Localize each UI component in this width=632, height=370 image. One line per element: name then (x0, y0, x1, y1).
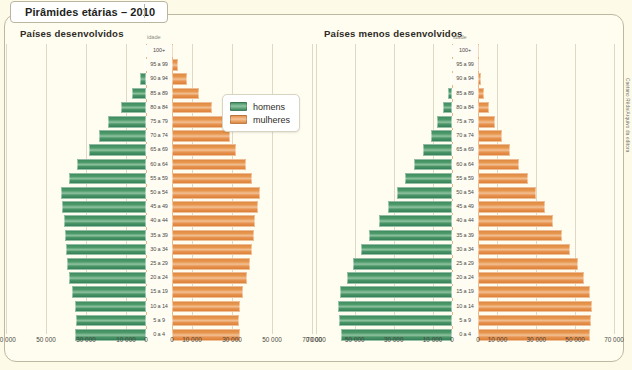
age-group-label: 90 a 94 (452, 73, 478, 85)
age-group-label: 50 a 54 (146, 187, 172, 199)
bar-homens (443, 102, 452, 114)
bar-mulheres (478, 159, 519, 171)
age-group-label: 95 a 99 (146, 59, 172, 71)
age-group-label: 75 a 79 (146, 116, 172, 128)
chart-panel-developed: Países desenvolvidos idade 100+95 a 9990… (6, 26, 312, 358)
legend-developed: homens mulheres (222, 94, 300, 132)
bar-homens (414, 159, 452, 171)
x-tick-label: 0 (144, 336, 148, 343)
pyramid-row: 5 a 9 (316, 314, 614, 328)
bar-homens (132, 88, 146, 100)
pyramid-row: 60 a 64 (316, 158, 614, 172)
x-tick-label: 70 000 (604, 336, 624, 343)
bar-homens (66, 244, 146, 256)
age-group-label: 30 a 34 (146, 244, 172, 256)
bar-mulheres (172, 201, 258, 213)
bar-homens (353, 258, 452, 270)
pyramid-row: 95 a 99 (6, 58, 312, 72)
bar-homens (75, 301, 146, 313)
bar-mulheres (478, 45, 480, 57)
bar-homens (61, 187, 146, 199)
pyramid-row: 85 a 89 (316, 87, 614, 101)
bar-mulheres (172, 159, 246, 171)
pyramid-row: 90 a 94 (316, 72, 614, 86)
age-group-label: 45 a 49 (452, 201, 478, 213)
bar-homens (379, 215, 452, 227)
bar-homens (62, 201, 146, 213)
x-tick-label: 10 000 (116, 336, 136, 343)
bar-mulheres (478, 73, 481, 85)
age-group-label: 5 a 9 (452, 315, 478, 327)
x-tick-label: 50 000 (262, 336, 282, 343)
pyramid-row: 20 a 24 (6, 271, 312, 285)
bar-mulheres (172, 187, 260, 199)
bar-mulheres (478, 272, 584, 284)
bar-homens (89, 144, 146, 156)
age-group-label: 35 a 39 (146, 230, 172, 242)
pyramid-row: 45 a 49 (6, 200, 312, 214)
bar-rows-less-developed: 100+95 a 9990 a 9485 a 8980 a 8475 a 797… (316, 44, 614, 334)
bar-homens (347, 272, 452, 284)
age-group-label: 70 a 74 (452, 130, 478, 142)
bar-mulheres (478, 173, 528, 185)
title-banner-tick (144, 4, 145, 18)
bar-homens (108, 116, 146, 128)
image-credit: Caetano Rêda/Arquivo da editora (625, 78, 630, 152)
age-group-label: 90 a 94 (146, 73, 172, 85)
bar-homens (431, 130, 452, 142)
bar-mulheres (478, 102, 489, 114)
x-tick-label: 30 000 (222, 336, 242, 343)
pyramid-row: 50 a 54 (6, 186, 312, 200)
bar-mulheres (478, 215, 553, 227)
age-group-label: 35 a 39 (452, 230, 478, 242)
pyramid-row: 65 a 69 (6, 143, 312, 157)
age-group-label: 50 a 54 (452, 187, 478, 199)
pyramid-row: 35 a 39 (316, 229, 614, 243)
bar-mulheres (478, 286, 590, 298)
pyramid-row: 25 a 29 (316, 257, 614, 271)
idade-axis-label-left: idade (147, 34, 161, 40)
x-tick-label: 50 000 (565, 336, 585, 343)
bar-mulheres (478, 187, 536, 199)
age-group-label: 85 a 89 (452, 88, 478, 100)
age-group-label: 40 a 44 (146, 215, 172, 227)
bar-homens (121, 102, 146, 114)
bar-homens (397, 187, 452, 199)
bar-homens (69, 272, 146, 284)
bar-mulheres (172, 286, 243, 298)
bar-mulheres (172, 215, 255, 227)
x-tick-label: 30 000 (527, 336, 547, 343)
x-tick-label: 0 (476, 336, 480, 343)
x-tick-label: 10 000 (488, 336, 508, 343)
x-axis-developed: 70 00050 00030 00010 0000010 00030 00050… (6, 336, 312, 352)
pyramid-row: 95 a 99 (316, 58, 614, 72)
bar-homens (339, 315, 452, 327)
gridline (312, 44, 313, 334)
legend-item-mulheres: mulheres (230, 113, 290, 126)
age-group-label: 45 a 49 (146, 201, 172, 213)
bar-homens (405, 173, 452, 185)
bar-mulheres (478, 59, 480, 71)
bar-homens (69, 173, 146, 185)
bar-mulheres (172, 130, 230, 142)
x-tick-label: 0 (170, 336, 174, 343)
age-group-label: 30 a 34 (452, 244, 478, 256)
age-group-label: 15 a 19 (452, 286, 478, 298)
bar-mulheres (172, 59, 178, 71)
x-tick-label: 70 000 (306, 336, 326, 343)
bar-mulheres (172, 102, 212, 114)
age-group-label: 100+ (452, 45, 478, 57)
bar-mulheres (172, 272, 247, 284)
pyramid-figure: Pirâmides etárias – 2010 Países desenvol… (0, 0, 632, 370)
bar-mulheres (172, 301, 240, 313)
bar-homens (361, 244, 452, 256)
chart-panel-less-developed: Países menos desenvolvidos idade 100+95 … (316, 26, 614, 358)
pyramid-row: 50 a 54 (316, 186, 614, 200)
plot-area-less-developed: 100+95 a 9990 a 9485 a 8980 a 8475 a 797… (316, 44, 614, 334)
bar-homens (64, 215, 146, 227)
bar-mulheres (172, 244, 252, 256)
bar-mulheres (478, 230, 562, 242)
bar-homens (423, 144, 452, 156)
age-group-label: 20 a 24 (452, 272, 478, 284)
bar-mulheres (172, 144, 236, 156)
